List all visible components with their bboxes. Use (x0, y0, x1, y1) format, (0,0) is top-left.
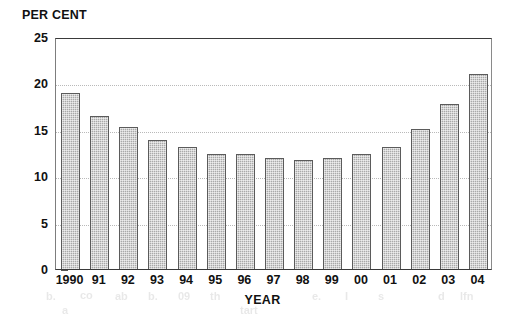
x-tick-label-95: 95 (208, 273, 222, 287)
y-tick-label-15: 15 (34, 124, 48, 138)
x-tick-label-00: 00 (354, 273, 368, 287)
x-tick-label-1990: 1990 (56, 273, 84, 287)
bar-slot (376, 37, 405, 269)
bar (207, 154, 226, 269)
x-tick-label-94: 94 (179, 273, 193, 287)
x-tick-label-92: 92 (121, 273, 135, 287)
x-tick-label-96: 96 (237, 273, 251, 287)
x-axis-title: YEAR (0, 293, 525, 307)
x-tick-label-99: 99 (325, 273, 339, 287)
bar-chart: PER CENT 0510152025 19909192939495969798… (0, 0, 525, 318)
bar-slot (114, 37, 143, 269)
bar-slot (435, 37, 464, 269)
y-tick-label-5: 5 (41, 217, 48, 231)
bar (294, 160, 313, 270)
bar-slot (406, 37, 435, 269)
bar (382, 147, 401, 269)
bar-slot (85, 37, 114, 269)
y-tick-label-0: 0 (41, 263, 48, 277)
x-tick-label-97: 97 (267, 273, 281, 287)
x-tick-label-01: 01 (383, 273, 397, 287)
x-tick-label-03: 03 (441, 273, 455, 287)
x-tick-label-91: 91 (92, 273, 106, 287)
bar-slot (289, 37, 318, 269)
y-axis-ticks: 0510152025 (14, 38, 48, 270)
bar-slot (318, 37, 347, 269)
bar-slot (464, 37, 493, 269)
plot-area (55, 38, 492, 270)
bar (411, 129, 430, 269)
bar (61, 93, 80, 269)
x-tick-label-93: 93 (150, 273, 164, 287)
bar-slot (202, 37, 231, 269)
bar (148, 140, 167, 269)
y-tick-label-25: 25 (34, 31, 48, 45)
bar (440, 104, 459, 269)
x-tick-label-04: 04 (470, 273, 484, 287)
y-axis-title: PER CENT (22, 8, 87, 22)
bar-slot (260, 37, 289, 269)
bars-layer (56, 39, 491, 269)
y-tick-label-20: 20 (34, 77, 48, 91)
bar-slot (231, 37, 260, 269)
y-tick-label-10: 10 (34, 170, 48, 184)
x-tick-label-98: 98 (296, 273, 310, 287)
x-axis-ticks: 19909192939495969798990001020304 (55, 273, 492, 293)
bar-slot (143, 37, 172, 269)
bar (265, 158, 284, 269)
bar (119, 127, 138, 269)
bar (90, 116, 109, 269)
bar (323, 158, 342, 269)
y-tick-mark-0 (61, 270, 68, 271)
bar (236, 154, 255, 269)
bar-slot (173, 37, 202, 269)
bar (178, 147, 197, 270)
x-tick-label-02: 02 (412, 273, 426, 287)
bar (352, 154, 371, 269)
bar (469, 74, 488, 269)
bar-slot (56, 37, 85, 269)
bar-slot (347, 37, 376, 269)
